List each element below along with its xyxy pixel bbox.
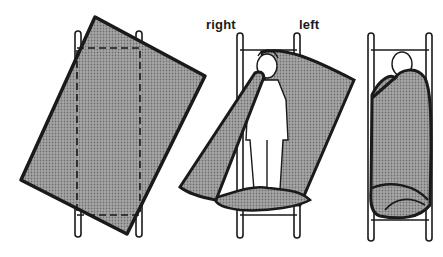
panel-step-1 bbox=[21, 17, 205, 237]
diagram-canvas bbox=[0, 0, 443, 257]
panel-step-2 bbox=[180, 33, 354, 238]
label-right: right bbox=[206, 17, 236, 32]
label-left: left bbox=[299, 17, 319, 32]
blanket-shape bbox=[21, 17, 205, 234]
panel-step-3 bbox=[368, 33, 432, 241]
